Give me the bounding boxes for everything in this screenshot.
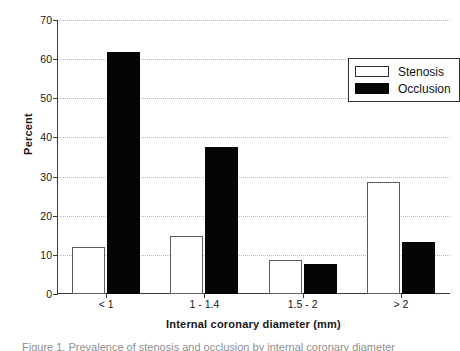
bar-stenosis-3: [367, 182, 400, 294]
y-tick-label: 40: [28, 131, 52, 143]
y-tick-label: 20: [28, 210, 52, 222]
x-axis-tick-labels: < 11 - 1.41.5 - 2> 2: [57, 298, 450, 316]
y-tick-mark: [53, 294, 58, 295]
x-axis-title: Internal coronary diameter (mm): [57, 318, 450, 330]
x-tick-label: > 2: [393, 298, 408, 310]
legend-swatch-occlusion-icon: [355, 83, 389, 94]
y-tick-label: 70: [28, 14, 52, 26]
bar-occlusion-0: [107, 52, 140, 294]
x-tick-label: 1 - 1.4: [189, 298, 219, 310]
legend-item-occlusion: Occlusion: [355, 80, 451, 97]
plot-area: Stenosis Occlusion: [57, 20, 450, 294]
y-axis-tick-labels: 010203040506070: [26, 0, 52, 351]
y-tick-label: 50: [28, 92, 52, 104]
bar-occlusion-1: [205, 147, 238, 294]
x-tick-label: 1.5 - 2: [288, 298, 318, 310]
figure-caption: Figure 1. Prevalence of stenosis and occ…: [22, 341, 452, 351]
legend-label-stenosis: Stenosis: [398, 65, 444, 79]
bar-stenosis-0: [72, 247, 105, 294]
legend-label-occlusion: Occlusion: [398, 82, 451, 96]
bar-occlusion-3: [402, 242, 435, 294]
legend-item-stenosis: Stenosis: [355, 63, 451, 80]
y-tick-label: 60: [28, 53, 52, 65]
chart-legend: Stenosis Occlusion: [348, 58, 460, 102]
y-tick-label: 10: [28, 249, 52, 261]
y-tick-label: 0: [28, 288, 52, 300]
bar-occlusion-2: [304, 264, 337, 294]
y-tick-label: 30: [28, 171, 52, 183]
legend-swatch-stenosis-icon: [355, 66, 389, 77]
x-tick-label: < 1: [99, 298, 114, 310]
bar-stenosis-2: [269, 260, 302, 294]
bar-stenosis-1: [170, 236, 203, 294]
